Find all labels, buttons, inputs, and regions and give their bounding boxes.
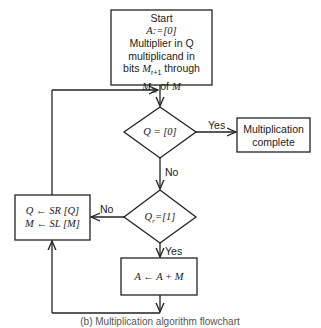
decision-qr-one: Qr=[1]: [124, 211, 196, 228]
yes-label-2: Yes: [165, 245, 182, 257]
complete-line-1: Multiplication: [237, 123, 310, 136]
start-box: Start A:=[0] Multiplier in Q multiplican…: [111, 12, 212, 97]
complete-box: Multiplication complete: [237, 123, 310, 148]
multiplier-text: Multiplier in Q: [111, 37, 212, 50]
add-box: A ← A + M: [121, 271, 197, 284]
multiplicand-text: multiplicand in: [111, 50, 212, 63]
yes-label-1: Yes: [208, 119, 225, 131]
bits-range-text: bits Mr+1 through: [111, 62, 212, 80]
complete-line-2: complete: [237, 136, 310, 149]
no-label-2: No: [100, 203, 113, 215]
shift-left-m: M ← SL [M]: [15, 218, 90, 231]
decision-q-zero: Q = [0]: [124, 126, 196, 139]
shift-right-q: Q ← SR [Q]: [15, 205, 90, 218]
figure-caption: (b) Multiplication algorithm flowchart: [60, 316, 260, 327]
no-label-1: No: [165, 166, 178, 178]
init-accumulator: A:=[0]: [111, 25, 212, 38]
bits-range-end: M2r of M: [111, 80, 212, 98]
shift-box: Q ← SR [Q] M ← SL [M]: [15, 205, 90, 230]
start-label: Start: [111, 12, 212, 25]
